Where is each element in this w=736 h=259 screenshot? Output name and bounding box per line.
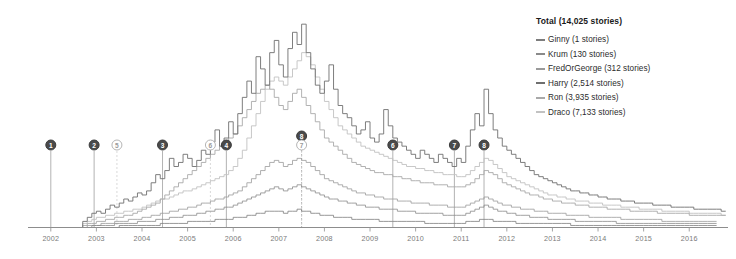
story-timeline-chart: 2002200320042005200620072008200920102011… bbox=[0, 0, 736, 259]
axis-tick-label: 2004 bbox=[134, 234, 151, 243]
marker-number-label: 6 bbox=[209, 142, 213, 149]
axis-tick-label: 2014 bbox=[590, 234, 607, 243]
legend-item-krum[interactable]: Krum (130 stories) bbox=[536, 47, 732, 62]
legend-swatch-icon bbox=[536, 111, 545, 113]
annotation-marker-badges[interactable]: 12536487678 bbox=[46, 131, 489, 150]
annotation-marker-4[interactable]: 4 bbox=[221, 140, 231, 150]
annotation-marker-5[interactable]: 5 bbox=[112, 140, 122, 150]
legend-item-ron[interactable]: Ron (3,935 stories) bbox=[536, 91, 732, 106]
marker-number-label: 3 bbox=[161, 142, 165, 149]
marker-number-label: 7 bbox=[300, 142, 304, 149]
annotation-marker-7[interactable]: 7 bbox=[297, 140, 307, 150]
legend-swatch-icon bbox=[536, 39, 545, 41]
axis-tick-label: 2012 bbox=[498, 234, 515, 243]
legend-title: Total (14,025 stories) bbox=[536, 16, 732, 26]
marker-number-label: 8 bbox=[482, 142, 486, 149]
axis-tick-label: 2016 bbox=[681, 234, 698, 243]
axis-tick-label: 2015 bbox=[635, 234, 652, 243]
marker-number-label: 1 bbox=[49, 142, 53, 149]
legend-item-label: Ron (3,935 stories) bbox=[548, 93, 619, 102]
legend-swatch-icon bbox=[536, 53, 545, 55]
marker-number-label: 4 bbox=[225, 142, 229, 149]
legend-item-fredorgeorge[interactable]: FredOrGeorge (312 stories) bbox=[536, 62, 732, 77]
axis-tick-label: 2010 bbox=[407, 234, 424, 243]
legend-swatch-icon bbox=[536, 82, 545, 84]
series-line-ginny bbox=[83, 209, 717, 227]
x-axis: 2002200320042005200620072008200920102011… bbox=[28, 228, 728, 244]
annotation-marker-7[interactable]: 7 bbox=[449, 140, 459, 150]
annotation-marker-6[interactable]: 6 bbox=[388, 140, 398, 150]
chart-legend: Total (14,025 stories) Ginny (1 stories)… bbox=[536, 16, 732, 120]
annotation-marker-3[interactable]: 3 bbox=[158, 140, 168, 150]
legend-item-draco[interactable]: Draco (7,133 stories) bbox=[536, 105, 732, 120]
legend-item-label: Krum (130 stories) bbox=[548, 50, 616, 59]
marker-number-label: 7 bbox=[453, 142, 457, 149]
axis-tick-label: 2003 bbox=[88, 234, 105, 243]
marker-number-label: 8 bbox=[300, 133, 304, 140]
axis-tick-label: 2011 bbox=[453, 234, 469, 243]
legend-entries: Ginny (1 stories)Krum (130 stories)FredO… bbox=[536, 33, 732, 120]
legend-item-label: Harry (2,514 stories) bbox=[548, 79, 624, 88]
annotation-marker-2[interactable]: 2 bbox=[89, 140, 99, 150]
legend-item-harry[interactable]: Harry (2,514 stories) bbox=[536, 76, 732, 91]
axis-tick-label: 2006 bbox=[225, 234, 242, 243]
legend-swatch-icon bbox=[536, 97, 545, 99]
marker-number-label: 6 bbox=[391, 142, 395, 149]
axis-tick-label: 2002 bbox=[42, 234, 59, 243]
legend-item-ginny[interactable]: Ginny (1 stories) bbox=[536, 33, 732, 48]
marker-number-label: 2 bbox=[92, 142, 96, 149]
axis-tick-label: 2009 bbox=[362, 234, 379, 243]
axis-tick-label: 2008 bbox=[316, 234, 333, 243]
marker-number-label: 5 bbox=[115, 142, 119, 149]
x-axis-ticks bbox=[51, 228, 689, 232]
annotation-marker-lines bbox=[51, 142, 484, 227]
x-axis-tick-labels: 2002200320042005200620072008200920102011… bbox=[42, 234, 697, 243]
axis-tick-label: 2005 bbox=[179, 234, 196, 243]
axis-tick-label: 2013 bbox=[544, 234, 561, 243]
axis-tick-label: 2007 bbox=[270, 234, 287, 243]
annotation-marker-6[interactable]: 6 bbox=[205, 140, 215, 150]
legend-item-label: FredOrGeorge (312 stories) bbox=[548, 64, 650, 73]
legend-swatch-icon bbox=[536, 68, 545, 70]
legend-item-label: Draco (7,133 stories) bbox=[548, 108, 626, 117]
legend-item-label: Ginny (1 stories) bbox=[548, 35, 609, 44]
annotation-marker-8[interactable]: 8 bbox=[479, 140, 489, 150]
annotation-marker-1[interactable]: 1 bbox=[46, 140, 56, 150]
